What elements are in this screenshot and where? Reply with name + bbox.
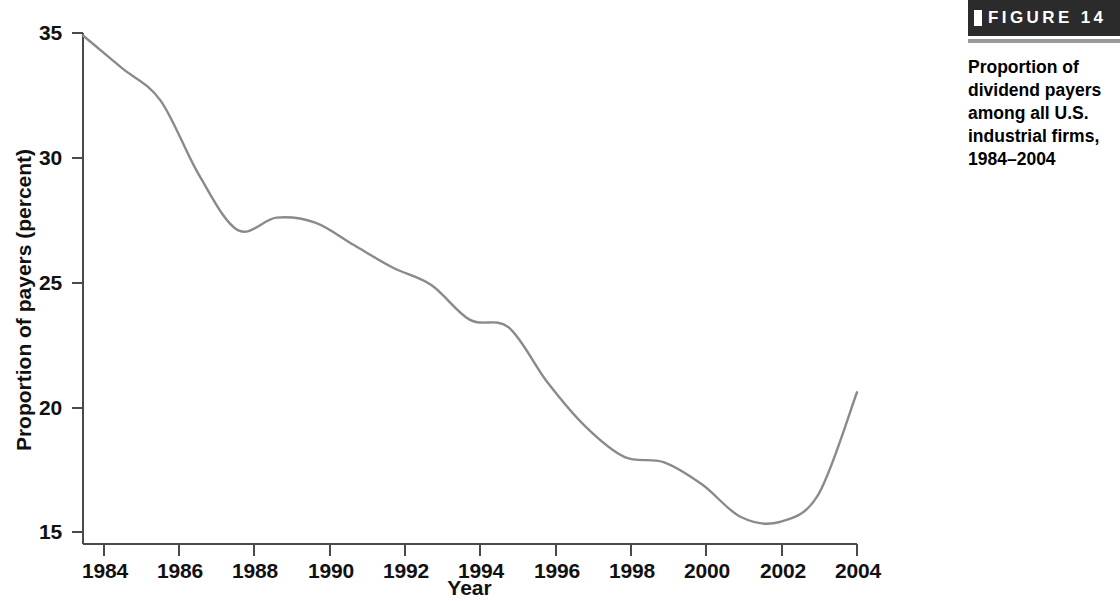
y-axis-ticks	[72, 33, 83, 532]
data-series-line	[83, 36, 857, 524]
y-tick-label-15: 15	[10, 520, 62, 544]
x-axis-title: Year	[82, 576, 857, 600]
figure-number-label: FIGURE 14	[988, 8, 1106, 28]
banner-marker-icon	[974, 10, 982, 26]
chart-panel: 35 30 25 20 15 1984 1986 1988 1990 1992 …	[0, 0, 940, 601]
figure-number-banner: FIGURE 14	[968, 0, 1120, 36]
chart-canvas	[0, 0, 940, 601]
y-axis-title: Proportion of payers (percent)	[12, 90, 36, 510]
figure-caption-text: Proportion of dividend payers among all …	[968, 56, 1118, 171]
figure-root: 35 30 25 20 15 1984 1986 1988 1990 1992 …	[0, 0, 1120, 601]
x-axis-ticks	[104, 544, 857, 556]
y-tick-label-35: 35	[10, 21, 62, 45]
figure-caption-panel: FIGURE 14 Proportion of dividend payers …	[968, 0, 1120, 601]
figure-divider-rule	[968, 39, 1120, 43]
